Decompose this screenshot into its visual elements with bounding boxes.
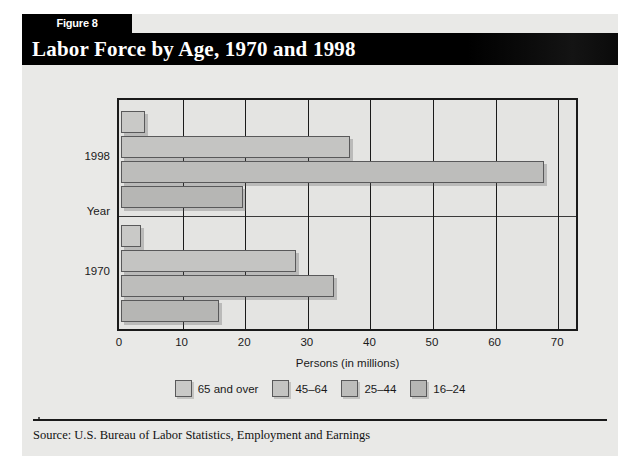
- category-separator-line: [119, 216, 576, 217]
- legend-swatch-icon: [272, 380, 289, 397]
- x-tick-label-70: 70: [537, 336, 577, 348]
- figure-number-tab: Figure 8: [22, 14, 132, 33]
- bar-1998-65-and-over: [121, 111, 145, 133]
- legend-swatch-icon: [175, 380, 192, 397]
- legend-swatch-icon: [341, 380, 358, 397]
- bar-1970-45–64: [121, 250, 296, 272]
- chart: Year 19981970 010203040506070 Persons (i…: [22, 65, 618, 405]
- figure-page: Figure 8 Labor Force by Age, 1970 and 19…: [0, 0, 640, 468]
- x-tick-label-30: 30: [287, 336, 327, 348]
- legend-label: 16–24: [433, 383, 465, 395]
- bar-1970-16–24: [121, 300, 219, 322]
- chart-legend: 65 and over45–6425–4416–24: [22, 380, 618, 397]
- x-tick-label-0: 0: [99, 336, 139, 348]
- title-bar-gradient: [468, 33, 618, 65]
- bar-1998-45–64: [121, 136, 350, 158]
- legend-label: 45–64: [295, 383, 327, 395]
- x-tick-label-40: 40: [349, 336, 389, 348]
- grid-line-x-50: [433, 100, 434, 329]
- plot-area: [117, 98, 578, 331]
- legend-item-45–64[interactable]: 45–64: [272, 380, 327, 397]
- grid-line-x-40: [370, 100, 371, 329]
- legend-item-25–44[interactable]: 25–44: [341, 380, 396, 397]
- page-title: Labor Force by Age, 1970 and 1998: [32, 33, 356, 65]
- figure-title-bar: Labor Force by Age, 1970 and 1998: [22, 33, 618, 65]
- grid-line-x-60: [496, 100, 497, 329]
- bar-1998-16–24: [121, 186, 243, 208]
- source-note: Source: U.S. Bureau of Labor Statistics,…: [33, 428, 370, 443]
- y-tick-label-1970: 1970: [30, 265, 110, 277]
- legend-label: 25–44: [364, 383, 396, 395]
- x-tick-label-10: 10: [162, 336, 202, 348]
- x-tick-label-20: 20: [224, 336, 264, 348]
- bar-1970-25–44: [121, 275, 334, 297]
- y-tick-label-1998: 1998: [30, 150, 110, 162]
- x-tick-label-60: 60: [475, 336, 515, 348]
- source-divider: [33, 419, 607, 421]
- figure-body: Figure 8 Labor Force by Age, 1970 and 19…: [22, 14, 618, 456]
- legend-label: 65 and over: [198, 383, 259, 395]
- legend-swatch-icon: [410, 380, 427, 397]
- x-tick-label-50: 50: [412, 336, 452, 348]
- y-axis-tick-labels: 19981970: [22, 98, 110, 331]
- legend-item-16–24[interactable]: 16–24: [410, 380, 465, 397]
- bar-1970-65-and-over: [121, 225, 141, 247]
- bar-1998-25–44: [121, 161, 544, 183]
- legend-item-65-and-over[interactable]: 65 and over: [175, 380, 259, 397]
- grid-line-x-70: [558, 100, 559, 329]
- x-axis-title: Persons (in millions): [117, 357, 578, 369]
